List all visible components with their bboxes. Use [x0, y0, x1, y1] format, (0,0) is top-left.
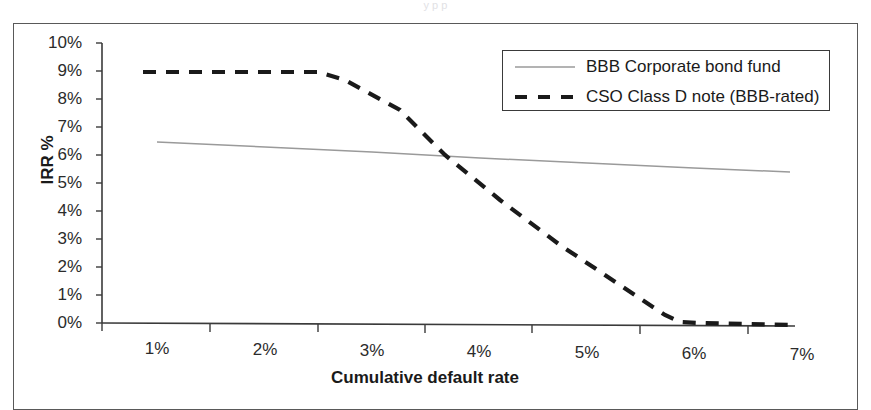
- x-axis-title: Cumulative default rate: [100, 368, 750, 388]
- x-tick-label: 3%: [337, 341, 407, 361]
- legend-label: BBB Corporate bond fund: [586, 57, 781, 77]
- dashed-line-swatch: [514, 90, 576, 104]
- x-tick-label: 4%: [444, 342, 514, 362]
- y-tick-label: 3%: [26, 229, 82, 249]
- legend-entry-cso-class-d-note: CSO Class D note (BBB-rated): [503, 82, 831, 112]
- legend-label: CSO Class D note (BBB-rated): [586, 87, 819, 107]
- y-tick-label: 1%: [26, 285, 82, 305]
- y-axis-ticks: [96, 43, 102, 323]
- x-tick-label: 5%: [552, 343, 622, 363]
- solid-line-swatch: [514, 60, 576, 74]
- x-tick-label: 2%: [230, 340, 300, 360]
- x-tick-label: 1%: [122, 339, 192, 359]
- y-tick-label: 2%: [26, 257, 82, 277]
- chart-page: y p p: [0, 0, 871, 410]
- x-tick-label: 6%: [659, 344, 729, 364]
- y-tick-label: 10%: [26, 33, 82, 53]
- y-tick-label: 9%: [26, 61, 82, 81]
- series-line-bbb-corporate-bond-fund: [157, 142, 790, 172]
- x-tick-label: 7%: [767, 345, 837, 365]
- chart-legend: BBB Corporate bond fund CSO Class D note…: [502, 50, 830, 111]
- y-axis-title: IRR %: [38, 100, 58, 220]
- y-tick-label: 0%: [26, 313, 82, 333]
- legend-entry-bbb-corporate-bond-fund: BBB Corporate bond fund: [503, 52, 831, 82]
